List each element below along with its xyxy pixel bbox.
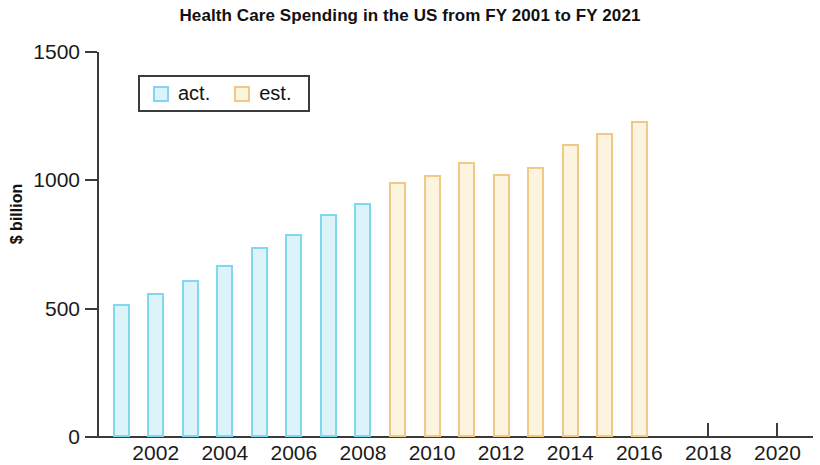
x-tick-label-2006: 2006: [271, 441, 318, 465]
x-tick-label-2004: 2004: [201, 441, 248, 465]
bar-2004: [216, 265, 233, 437]
chart-title: Health Care Spending in the US from FY 2…: [0, 6, 820, 26]
x-tick-label-2012: 2012: [478, 441, 525, 465]
legend: act.est.: [138, 75, 310, 112]
legend-label-act: act.: [178, 82, 210, 105]
bar-2012: [493, 174, 510, 437]
bar-2006: [285, 234, 302, 437]
x-tick-label-2014: 2014: [547, 441, 594, 465]
y-tick-0: [85, 436, 97, 438]
legend-entry-est: est.: [234, 77, 291, 110]
legend-swatch-est: [234, 86, 250, 102]
legend-entry-act: act.: [153, 77, 210, 110]
bar-2013: [527, 167, 544, 437]
bar-2001: [113, 304, 130, 437]
bar-2008: [354, 203, 371, 437]
bar-2011: [458, 162, 475, 437]
legend-swatch-act: [153, 86, 169, 102]
bar-2007: [320, 214, 337, 437]
bar-2015: [596, 133, 613, 437]
bar-2002: [147, 293, 164, 437]
x-tick-label-2010: 2010: [409, 441, 456, 465]
bar-2014: [562, 144, 579, 437]
y-tick-1000: [85, 179, 97, 181]
y-tick-label-1500: 1500: [14, 40, 80, 64]
x-tick-label-2018: 2018: [685, 441, 732, 465]
y-tick-1500: [85, 51, 97, 53]
bar-2009: [389, 182, 406, 437]
y-tick-label-0: 0: [14, 425, 80, 449]
x-tick-label-2016: 2016: [616, 441, 663, 465]
bar-2003: [182, 280, 199, 437]
bar-2005: [251, 247, 268, 437]
x-tick-label-2020: 2020: [754, 441, 801, 465]
x-tick-label-2002: 2002: [132, 441, 179, 465]
bar-2016: [631, 121, 648, 437]
y-tick-label-1000: 1000: [14, 168, 80, 192]
y-tick-500: [85, 308, 97, 310]
y-tick-label-500: 500: [14, 297, 80, 321]
x-tick-label-2008: 2008: [340, 441, 387, 465]
legend-label-est: est.: [259, 82, 291, 105]
bar-2010: [424, 175, 441, 437]
